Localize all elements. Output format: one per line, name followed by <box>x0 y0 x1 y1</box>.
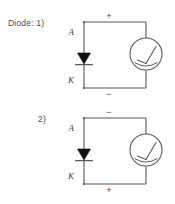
junction-dot-top-2 <box>83 117 85 119</box>
diode-triangle-1 <box>78 53 91 64</box>
meter-needle-1 <box>146 47 156 64</box>
meter-needle-tail-2 <box>138 156 147 160</box>
terminal-sign-bottom-1: − <box>106 89 111 99</box>
terminal-sign-top-2: − <box>106 107 111 117</box>
junction-dot-bottom-2 <box>83 183 85 185</box>
circuit-1-schematic: + − A K <box>0 8 175 100</box>
diode-polarity-figure: Diode: 1) + − <box>0 0 175 204</box>
cathode-label-1: K <box>67 75 75 85</box>
meter-needle-2 <box>146 143 156 160</box>
meter-body-1 <box>130 38 162 70</box>
circuit-2-schematic: − + A K <box>0 104 175 196</box>
cathode-label-2: K <box>67 171 75 181</box>
diode-triangle-2 <box>78 149 91 160</box>
circuit-diagram-1: Diode: 1) + − <box>0 8 175 100</box>
circuit-diagram-2: 2) − + A K <box>0 104 175 196</box>
junction-dot-top-1 <box>83 21 85 23</box>
anode-label-2: A <box>68 123 75 133</box>
meter-body-2 <box>130 134 162 166</box>
anode-label-1: A <box>68 27 75 37</box>
terminal-sign-top-1: + <box>106 11 111 21</box>
terminal-sign-bottom-2: + <box>106 185 111 195</box>
junction-dot-bottom-1 <box>83 87 85 89</box>
meter-needle-tail-1 <box>138 60 147 64</box>
